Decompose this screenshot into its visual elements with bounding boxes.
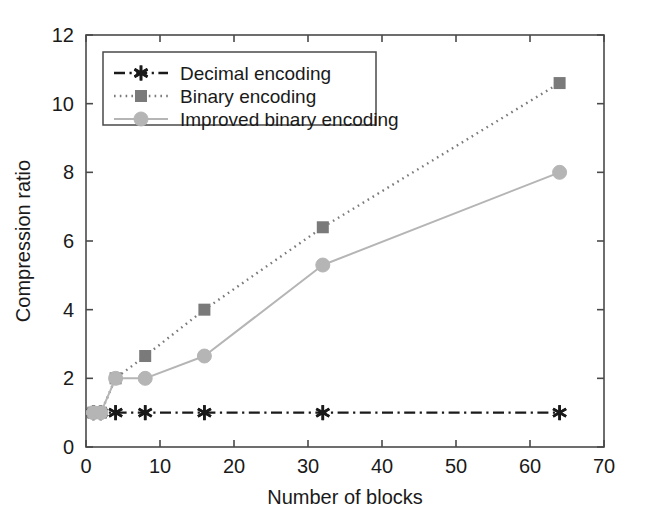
data-point (316, 258, 330, 272)
x-tick-label: 20 (223, 455, 245, 477)
x-tick-label: 10 (149, 455, 171, 477)
chart-legend[interactable]: Decimal encodingBinary encodingImproved … (103, 52, 399, 130)
x-tick-label: 60 (519, 455, 541, 477)
y-tick-label: 0 (63, 436, 74, 458)
y-tick-label: 4 (63, 299, 74, 321)
x-tick-label: 70 (593, 455, 615, 477)
data-point (139, 350, 151, 362)
y-tick-label: 12 (52, 24, 74, 46)
compression-ratio-line-chart: 010203040506070 024681012 Decimal encodi… (0, 0, 646, 520)
legend-item-label: Improved binary encoding (180, 109, 399, 130)
x-tick-label: 40 (371, 455, 393, 477)
data-point (94, 406, 108, 420)
legend-item-label: Decimal encoding (180, 63, 331, 84)
data-point (138, 371, 152, 385)
legend-marker-sample (135, 90, 147, 102)
y-axis-title: Compression ratio (12, 160, 34, 322)
x-tick-label: 50 (445, 455, 467, 477)
y-tick-label: 6 (63, 230, 74, 252)
data-point (109, 371, 123, 385)
chart-figure: 010203040506070 024681012 Decimal encodi… (0, 0, 646, 520)
legend-marker-sample (134, 112, 148, 126)
x-axis-title: Number of blocks (267, 486, 423, 508)
x-tick-label: 0 (80, 455, 91, 477)
data-point (197, 349, 211, 363)
data-point (553, 165, 567, 179)
data-point (317, 221, 329, 233)
y-tick-label: 2 (63, 367, 74, 389)
y-tick-label: 8 (63, 161, 74, 183)
x-tick-label: 30 (297, 455, 319, 477)
data-point (554, 77, 566, 89)
y-tick-label: 10 (52, 93, 74, 115)
data-point (198, 304, 210, 316)
legend-item-label: Binary encoding (180, 86, 316, 107)
